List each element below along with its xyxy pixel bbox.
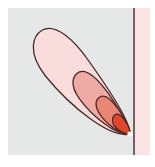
- source-point: [127, 131, 132, 136]
- lobe-diagram: [0, 0, 155, 167]
- right-region: [134, 8, 150, 155]
